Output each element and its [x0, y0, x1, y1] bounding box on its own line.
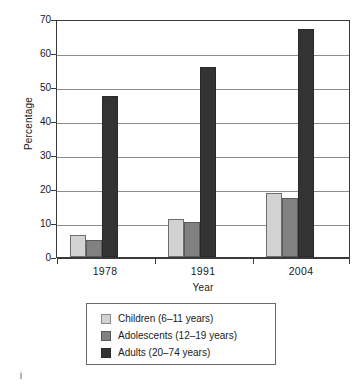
legend-item: Adolescents (12–19 years)	[101, 327, 275, 344]
y-axis-tick-label: 70	[11, 15, 51, 25]
y-axis-tick-label: 60	[11, 49, 51, 59]
bar-group	[70, 21, 118, 257]
bar	[70, 235, 86, 257]
chart-legend: Children (6–11 years)Adolescents (12–19 …	[86, 303, 276, 365]
bars-layer	[57, 21, 349, 257]
gridline	[57, 258, 349, 260]
x-axis-tick-mark	[57, 258, 58, 264]
bar	[86, 240, 102, 257]
bar	[282, 198, 298, 257]
x-axis-tick-mark	[253, 258, 254, 264]
y-axis-tick-label: 10	[11, 219, 51, 229]
legend-label: Adolescents (12–19 years)	[118, 330, 237, 341]
legend-swatch-icon	[101, 348, 111, 358]
bar-group	[266, 21, 314, 257]
y-axis-tick-label: 50	[11, 83, 51, 93]
x-axis-tick-label: 2004	[271, 265, 331, 277]
legend-swatch-icon	[101, 314, 111, 324]
bar	[168, 219, 184, 257]
bar	[298, 29, 314, 257]
scan-artifact-mark	[18, 369, 24, 379]
y-axis-tick-label: 0	[11, 253, 51, 263]
legend-item: Children (6–11 years)	[101, 310, 275, 327]
legend-swatch-icon	[101, 331, 111, 341]
x-axis-tick-label: 1991	[173, 265, 233, 277]
bar	[102, 96, 118, 257]
y-axis-tick-label: 40	[11, 117, 51, 127]
legend-label: Children (6–11 years)	[118, 313, 213, 324]
y-axis-tick-label: 20	[11, 185, 51, 195]
x-axis-tick-mark	[155, 258, 156, 264]
bar-chart-figure: Percentage 010203040506070 197819912004 …	[0, 0, 363, 384]
bar	[266, 193, 282, 257]
bar	[200, 67, 216, 257]
plot-area	[56, 20, 350, 258]
x-axis-title: Year	[56, 282, 350, 293]
legend-label: Adults (20–74 years)	[118, 347, 210, 358]
x-axis-tick-label: 1978	[75, 265, 135, 277]
y-axis-tick-label: 30	[11, 151, 51, 161]
x-axis-tick-mark	[349, 258, 350, 264]
y-axis-tick-mark	[51, 258, 56, 259]
legend-item: Adults (20–74 years)	[101, 344, 275, 361]
bar-group	[168, 21, 216, 257]
bar	[184, 222, 200, 257]
